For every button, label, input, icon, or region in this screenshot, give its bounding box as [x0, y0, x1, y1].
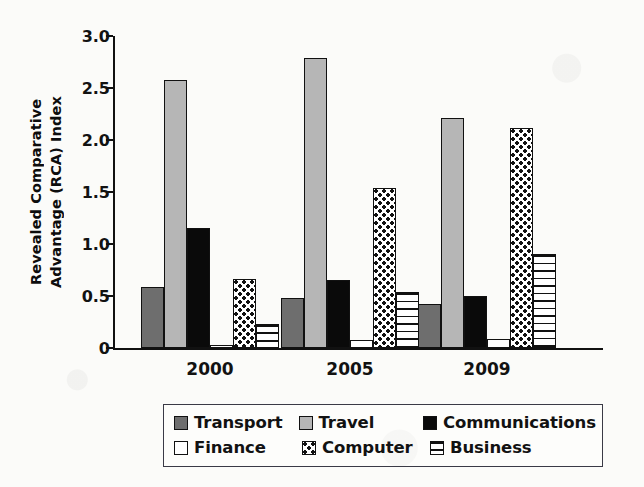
bar-group-2009 [418, 36, 556, 348]
travel-swatch-icon [299, 416, 313, 430]
legend-row: TransportTravelCommunications [174, 410, 596, 435]
bar-computer-2000 [233, 279, 256, 348]
bar-travel-2000 [164, 80, 187, 348]
bar-computer-2005 [373, 188, 396, 348]
plot-area [113, 36, 603, 348]
bar-transport-2005 [281, 298, 304, 348]
y-tick-mark [106, 295, 113, 297]
legend-item-transport[interactable]: Transport [174, 413, 299, 432]
bar-finance-2009 [487, 339, 510, 348]
y-tick-label: 0.5 [66, 287, 110, 306]
y-tick-label: 2.0 [66, 131, 110, 150]
bar-communications-2000 [187, 228, 210, 348]
x-axis-label-2009: 2009 [442, 359, 532, 379]
bar-computer-2009 [510, 128, 533, 348]
chart-figure: Revealed Comparative Advantage (RCA) Ind… [0, 0, 644, 487]
bar-business-2009 [533, 254, 556, 348]
y-tick-label: 3.0 [66, 27, 110, 46]
legend-item-business[interactable]: Business [430, 438, 532, 457]
y-tick-label: 2.5 [66, 79, 110, 98]
finance-swatch-icon [174, 441, 188, 455]
legend-label: Business [450, 438, 532, 457]
y-tick-label: 1.0 [66, 235, 110, 254]
bar-travel-2005 [304, 58, 327, 348]
bar-finance-2005 [350, 340, 373, 348]
y-axis-tick-labels: 00.51.01.52.02.53.0 [62, 0, 110, 487]
bar-business-2000 [256, 324, 279, 348]
bar-transport-2000 [141, 287, 164, 348]
computer-swatch-icon [302, 441, 316, 455]
y-axis-line [113, 36, 115, 348]
y-axis-title-line-1: Revealed Comparative [28, 36, 44, 348]
y-tick-mark [106, 87, 113, 89]
legend-row: FinanceComputerBusiness [174, 435, 596, 460]
y-tick-label: 0 [66, 339, 110, 358]
bar-communications-2009 [464, 296, 487, 348]
bar-communications-2005 [327, 280, 350, 348]
legend-label: Travel [319, 413, 375, 432]
legend-item-travel[interactable]: Travel [299, 413, 424, 432]
x-axis-label-2000: 2000 [165, 359, 255, 379]
legend-label: Transport [194, 413, 283, 432]
bar-finance-2000 [210, 345, 233, 348]
y-tick-mark [106, 347, 113, 349]
legend-label: Communications [443, 413, 596, 432]
chart-legend: TransportTravelCommunicationsFinanceComp… [163, 404, 603, 467]
legend-label: Computer [322, 438, 413, 457]
x-axis-label-2005: 2005 [305, 359, 395, 379]
business-swatch-icon [430, 441, 444, 455]
transport-swatch-icon [174, 416, 188, 430]
legend-item-computer[interactable]: Computer [302, 438, 430, 457]
comms-swatch-icon [423, 416, 437, 430]
legend-item-finance[interactable]: Finance [174, 438, 302, 457]
x-axis-line [113, 348, 603, 350]
bar-group-2000 [141, 36, 279, 348]
y-tick-label: 1.5 [66, 183, 110, 202]
legend-label: Finance [194, 438, 266, 457]
bar-transport-2009 [418, 304, 441, 348]
legend-item-communications[interactable]: Communications [423, 413, 596, 432]
y-tick-mark [106, 139, 113, 141]
bar-business-2005 [396, 292, 419, 348]
y-tick-mark [106, 243, 113, 245]
y-tick-mark [106, 191, 113, 193]
y-tick-mark [106, 35, 113, 37]
bar-group-2005 [281, 36, 419, 348]
bar-travel-2009 [441, 118, 464, 348]
